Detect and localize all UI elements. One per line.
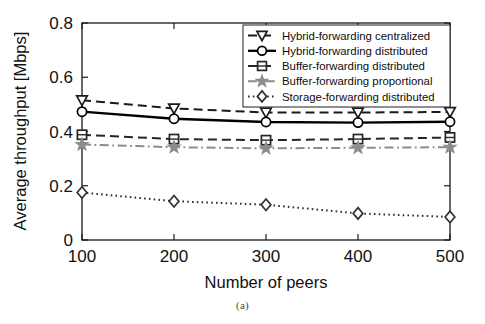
figure-container: 00.20.40.60.8 100200300400500 Average th… [0, 0, 485, 324]
y-tick-label: 0.4 [49, 123, 73, 142]
x-tick-label: 300 [252, 247, 280, 266]
x-tick-label: 100 [68, 247, 96, 266]
legend-label: Hybrid-forwarding distributed [282, 45, 428, 57]
x-tick-label: 500 [436, 247, 464, 266]
x-tick-label: 400 [344, 247, 372, 266]
y-axis-title: Average throughput [Mbps] [11, 32, 29, 231]
data-point-marker-circle [77, 107, 86, 116]
chart-legend[interactable]: Hybrid-forwarding centralizedHybrid-forw… [243, 25, 450, 107]
x-tick-label: 200 [160, 247, 188, 266]
data-point-marker-circle [445, 117, 454, 126]
data-point-marker-circle [258, 46, 267, 55]
data-point-marker-circle [353, 118, 362, 127]
x-axis-title: Number of peers [205, 273, 328, 291]
data-point-marker-circle [169, 114, 178, 123]
legend-label: Buffer-forwarding proportional [282, 75, 432, 87]
y-tick-label: 0.6 [49, 68, 73, 87]
legend-label: Storage-forwarding distributed [282, 91, 435, 103]
y-tick-label: 0.8 [49, 14, 73, 33]
y-tick-label: 0.2 [49, 177, 73, 196]
legend-label: Hybrid-forwarding centralized [282, 30, 430, 42]
legend-label: Buffer-forwarding distributed [282, 60, 425, 72]
chart-plot: 00.20.40.60.8 100200300400500 Average th… [0, 0, 485, 300]
figure-caption: (a) [0, 299, 485, 311]
data-point-marker-circle [261, 117, 270, 126]
